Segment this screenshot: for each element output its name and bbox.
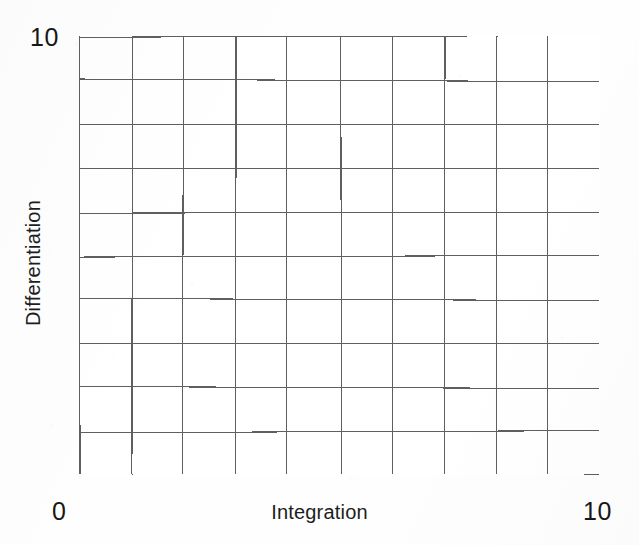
y-axis-max-label: 10 [30,23,59,52]
x-axis-max-label: 10 [583,497,612,526]
grid-lines [79,36,600,475]
grid-line-vertical [341,37,342,475]
grid-line-horizontal [80,36,600,37]
grid-line-horizontal [80,387,600,389]
figure-canvas: 10 Differentiation 0 Integration 10 [0,0,639,545]
y-axis-title: Differentiation [22,200,45,326]
grid-line-horizontal [80,298,600,300]
grid-line-horizontal [80,431,600,433]
grid-line-vertical [183,37,184,475]
grid-line-vertical [80,37,81,475]
grid-line-horizontal [80,79,600,82]
plot-area [79,36,600,475]
grid-line-horizontal [80,212,600,213]
grid-line-horizontal [80,343,600,344]
grid-line-horizontal [80,255,600,257]
x-axis-title: Integration [0,501,639,524]
